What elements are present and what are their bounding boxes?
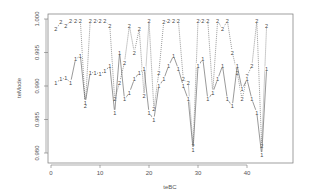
- point-label: 1: [221, 63, 224, 69]
- point-label: 2: [79, 18, 82, 24]
- point-label: 1: [211, 90, 214, 96]
- point-label: 1: [89, 70, 92, 76]
- point-label: 2: [265, 23, 268, 29]
- point-label: 1: [64, 75, 67, 81]
- x-tick-label: 0: [49, 170, 53, 176]
- x-axis-label: teBC: [163, 184, 177, 190]
- point-label: 1: [241, 86, 244, 92]
- point-label: 2: [74, 18, 77, 24]
- x-tick-label: 10: [97, 170, 104, 176]
- point-label: 1: [236, 63, 239, 69]
- point-label: 1: [162, 76, 165, 82]
- point-label: 2: [143, 93, 146, 99]
- point-label: 1: [98, 71, 101, 77]
- point-label: 2: [226, 18, 229, 24]
- point-label: 2: [59, 19, 62, 25]
- point-label: 1: [201, 56, 204, 62]
- point-label: 2: [64, 23, 67, 29]
- point-label: 1: [103, 68, 106, 74]
- point-label: 2: [172, 18, 175, 24]
- point-label: 2: [162, 19, 165, 25]
- point-label: 2: [103, 18, 106, 24]
- point-label: 1: [118, 50, 121, 56]
- line-chart: 0.9800.9850.9900.9951.000 010203040 2222…: [0, 0, 310, 196]
- plot-frame: [48, 14, 293, 163]
- point-label: 2: [177, 18, 180, 24]
- point-label: 2: [216, 18, 219, 24]
- point-label: 1: [108, 63, 111, 69]
- point-label: 1: [265, 66, 268, 72]
- point-label: 1: [79, 53, 82, 59]
- point-label: 2: [94, 18, 97, 24]
- point-label: 2: [147, 18, 150, 24]
- point-label: 1: [74, 56, 77, 62]
- point-label: 1: [69, 80, 72, 86]
- point-label: 2: [138, 26, 141, 32]
- point-label: 1: [59, 76, 62, 82]
- point-label: 1: [123, 96, 126, 102]
- point-label: 1: [216, 76, 219, 82]
- point-label: 1: [192, 147, 195, 153]
- point-label: 1: [167, 63, 170, 69]
- point-label: 2: [201, 18, 204, 24]
- point-label: 2: [231, 50, 234, 56]
- y-tick-label: 0.985: [34, 111, 40, 127]
- point-label: 2: [89, 18, 92, 24]
- point-label: 2: [255, 18, 258, 24]
- point-label: 1: [84, 100, 87, 106]
- y-tick-label: 0.995: [34, 44, 40, 60]
- point-label: 1: [128, 90, 131, 96]
- y-tick-label: 0.990: [34, 78, 40, 94]
- y-tick-label: 1.000: [34, 11, 40, 27]
- point-label: 2: [167, 18, 170, 24]
- point-label: 1: [245, 76, 248, 82]
- point-label: 1: [172, 53, 175, 59]
- y-axis-label: teMode: [16, 77, 22, 98]
- point-label: 1: [226, 96, 229, 102]
- point-label: 1: [255, 110, 258, 116]
- point-label: 2: [206, 18, 209, 24]
- point-label: 1: [94, 70, 97, 76]
- point-label: 1: [187, 96, 190, 102]
- point-label: 1: [138, 70, 141, 76]
- x-axis: 010203040: [49, 165, 251, 176]
- point-label: 1: [196, 63, 199, 69]
- x-tick-label: 30: [195, 170, 202, 176]
- point-label: 1: [231, 103, 234, 109]
- point-label: 2: [196, 18, 199, 24]
- point-label: 2: [128, 23, 131, 29]
- point-label: 2: [118, 80, 121, 86]
- point-label: 1: [250, 96, 253, 102]
- point-label: 2: [241, 96, 244, 102]
- point-label: 2: [133, 50, 136, 56]
- point-label: 2: [157, 70, 160, 76]
- point-label: 2: [108, 23, 111, 29]
- point-label: 2: [54, 26, 57, 32]
- x-tick-label: 40: [244, 170, 251, 176]
- point-label: 1: [206, 96, 209, 102]
- y-tick-label: 0.980: [34, 145, 40, 161]
- point-label: 1: [133, 76, 136, 82]
- point-label: 1: [113, 110, 116, 116]
- point-label: 2: [187, 80, 190, 86]
- point-label: 2: [250, 63, 253, 69]
- point-label: 1: [147, 110, 150, 116]
- series-2-dotted-line: 2222222222222222222222222222222222222222…: [54, 18, 269, 149]
- point-label: 2: [221, 26, 224, 32]
- point-label: 1: [152, 117, 155, 123]
- point-label: 1: [182, 83, 185, 89]
- point-label: 1: [54, 80, 57, 86]
- point-label: 2: [69, 18, 72, 24]
- point-label: 2: [123, 60, 126, 66]
- series-1-solid-line: 1111111111111111111111111111111111111111…: [54, 50, 269, 159]
- x-tick-label: 20: [146, 170, 153, 176]
- point-label: 1: [177, 66, 180, 72]
- point-label: 1: [143, 66, 146, 72]
- y-axis: 0.9800.9850.9900.9951.000: [34, 11, 48, 161]
- point-label: 2: [98, 18, 101, 24]
- point-label: 1: [157, 83, 160, 89]
- point-label: 1: [260, 152, 263, 158]
